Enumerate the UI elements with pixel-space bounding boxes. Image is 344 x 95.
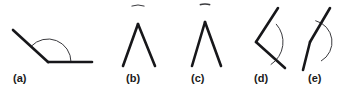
figure-e bbox=[303, 8, 332, 70]
figure-c-left-ray bbox=[192, 22, 205, 66]
figure-a bbox=[13, 30, 92, 62]
figure-label-c: (c) bbox=[191, 72, 204, 84]
figure-drawing-canvas bbox=[0, 0, 344, 95]
figure-c bbox=[192, 4, 221, 66]
figure-e-upper-ray bbox=[310, 8, 330, 42]
figure-c-interior-angle-arc bbox=[200, 4, 211, 5]
figure-label-a: (a) bbox=[13, 72, 26, 84]
figure-c-right-ray bbox=[205, 22, 221, 66]
figure-label-b: (b) bbox=[126, 72, 140, 84]
angle-figures-sheet: (a) (b) (c) (d) (e) bbox=[0, 0, 344, 95]
figure-b bbox=[123, 5, 155, 66]
figure-d-lower-ray bbox=[256, 42, 285, 68]
figure-d-upper-ray bbox=[256, 8, 278, 42]
figure-d bbox=[256, 8, 285, 68]
figure-e-lower-ray bbox=[303, 42, 310, 70]
figure-label-d: (d) bbox=[254, 72, 268, 84]
figure-a-upper-left-ray bbox=[13, 30, 48, 62]
figure-b-right-ray bbox=[138, 24, 155, 66]
figure-b-reflex-angle-arc bbox=[132, 5, 145, 6]
figure-b-left-ray bbox=[123, 24, 138, 66]
figure-label-e: (e) bbox=[308, 72, 321, 84]
